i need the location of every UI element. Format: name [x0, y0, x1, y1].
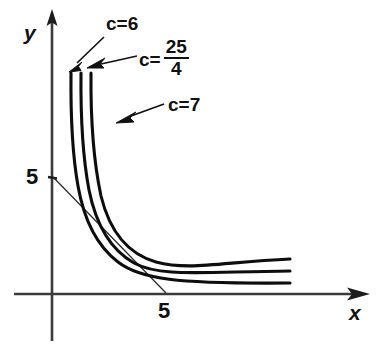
- annotation-label-c7: c=7: [168, 95, 200, 114]
- fraction-denominator: 4: [169, 59, 184, 79]
- y-axis-tick-5: [48, 177, 57, 179]
- level-curves-figure: y x 5 5 c=6 c= 25 4 c=7: [0, 0, 379, 354]
- arrow-line-c25over4: [101, 56, 137, 64]
- annotation-c25over4-prefix: c=: [139, 50, 161, 69]
- arrow-head-c7: [116, 112, 136, 123]
- arrow-line-c7: [131, 104, 164, 116]
- fraction-numerator: 25: [164, 37, 189, 57]
- fraction-25-over-4: 25 4: [164, 37, 189, 79]
- x-axis-tick-label-5: 5: [158, 300, 170, 322]
- axes-group: [14, 9, 370, 341]
- y-axis-label: y: [24, 22, 36, 43]
- plot-canvas: [0, 0, 379, 354]
- y-axis-tick-label-5: 5: [26, 166, 38, 188]
- x-axis-label: x: [349, 302, 361, 323]
- arrow-head-c6: [69, 62, 82, 72]
- annotation-label-c25over4: c= 25 4: [139, 38, 189, 80]
- arrow-line-c6: [77, 37, 104, 63]
- annotation-label-c6: c=6: [106, 14, 138, 33]
